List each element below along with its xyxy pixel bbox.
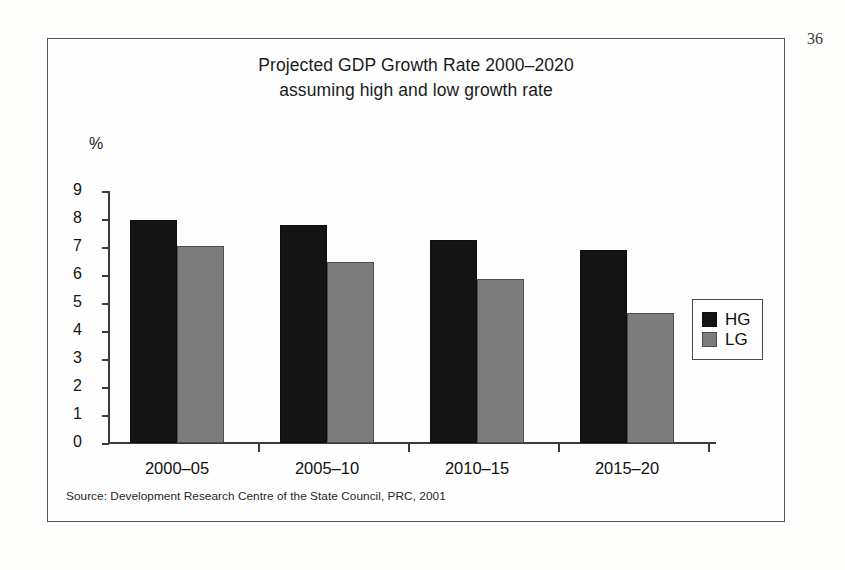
chart-legend: HG LG xyxy=(692,299,763,360)
legend-swatch-hg-icon xyxy=(702,312,717,327)
figure-frame: Projected GDP Growth Rate 2000–2020 assu… xyxy=(47,38,785,522)
y-axis-tick-label: 5 xyxy=(42,293,82,311)
bar-lg-2 xyxy=(477,279,524,443)
source-note: Source: Development Research Centre of t… xyxy=(66,489,446,503)
legend-item-hg: HG xyxy=(702,311,751,328)
y-axis-tick-label: 8 xyxy=(42,209,82,227)
y-axis-tick-label: 1 xyxy=(42,405,82,423)
y-axis-tick-label: 0 xyxy=(42,433,82,451)
bar-lg-3 xyxy=(627,313,674,443)
y-axis-tick-label: 4 xyxy=(42,321,82,339)
plot-area: 0123456789 2000–052005–102010–152015–20 xyxy=(108,185,708,450)
y-axis-tick-label: 3 xyxy=(42,349,82,367)
y-axis-tick-label: 6 xyxy=(42,265,82,283)
x-axis-category-label: 2015–20 xyxy=(595,459,659,478)
bar-lg-1 xyxy=(327,262,374,443)
legend-swatch-lg-icon xyxy=(702,332,717,347)
y-axis-tick-label: 9 xyxy=(42,181,82,199)
bar-hg-3 xyxy=(580,250,627,443)
bar-hg-1 xyxy=(280,225,327,443)
legend-item-lg: LG xyxy=(702,331,751,348)
x-axis-tick xyxy=(708,444,710,452)
x-axis-category-label: 2010–15 xyxy=(445,459,509,478)
bar-hg-0 xyxy=(130,220,177,443)
page-number: 36 xyxy=(807,30,823,48)
y-axis-tick-label: 7 xyxy=(42,237,82,255)
x-axis-category-label: 2000–05 xyxy=(145,459,209,478)
legend-label-lg: LG xyxy=(725,331,748,348)
bar-hg-2 xyxy=(430,240,477,443)
y-axis-tick-label: 2 xyxy=(42,377,82,395)
bars-layer xyxy=(108,185,708,450)
legend-label-hg: HG xyxy=(725,311,751,328)
y-axis-unit-label: % xyxy=(89,135,103,153)
bar-lg-0 xyxy=(177,246,224,443)
x-axis-category-label: 2005–10 xyxy=(295,459,359,478)
plot-wrapper: % 0123456789 2000–052005–102010–152015–2… xyxy=(48,39,786,523)
